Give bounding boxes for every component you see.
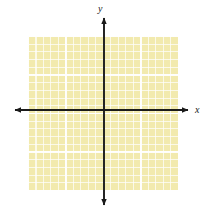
coordinate-plane-figure: x y: [0, 0, 210, 216]
x-axis-label: x: [195, 105, 199, 115]
y-axis-label: y: [98, 4, 102, 14]
axes-layer: [0, 0, 210, 216]
